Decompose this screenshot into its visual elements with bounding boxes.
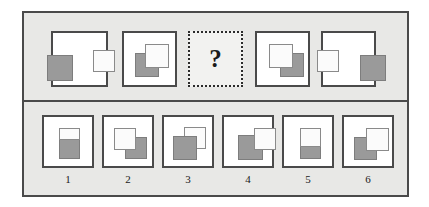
answer-option-6[interactable]: [342, 115, 394, 168]
answer-option-label-3: 3: [162, 173, 214, 185]
answer-option-label-6: 6: [342, 173, 394, 185]
answer-option-label-4: 4: [222, 173, 274, 185]
answer-option-3[interactable]: [162, 115, 214, 168]
white-square: [366, 128, 389, 151]
white-square: [145, 44, 169, 68]
answer-option-5[interactable]: [282, 115, 334, 168]
puzzle-container: ? 123456: [0, 0, 429, 207]
gray-square: [47, 55, 73, 81]
question-mark: ?: [190, 33, 241, 85]
answer-option-label-2: 2: [102, 173, 154, 185]
white-square: [93, 50, 115, 72]
answer-option-2[interactable]: [102, 115, 154, 168]
question-cell-missing: ?: [188, 31, 243, 87]
answer-option-4[interactable]: [222, 115, 274, 168]
question-cell-4: [255, 31, 310, 87]
row-divider: [22, 100, 409, 102]
gray-square: [360, 55, 386, 81]
answer-option-1[interactable]: [42, 115, 94, 168]
question-cell-2: [122, 31, 177, 87]
white-square: [269, 44, 293, 68]
question-cell-1: [51, 31, 108, 87]
white-square: [254, 128, 276, 150]
white-square: [114, 128, 136, 150]
answer-option-label-1: 1: [42, 173, 94, 185]
question-cell-5: [321, 31, 376, 87]
white-square: [317, 50, 339, 72]
answer-option-label-5: 5: [282, 173, 334, 185]
gray-square: [173, 136, 197, 160]
white-square: [59, 128, 80, 140]
white-square: [300, 128, 321, 147]
